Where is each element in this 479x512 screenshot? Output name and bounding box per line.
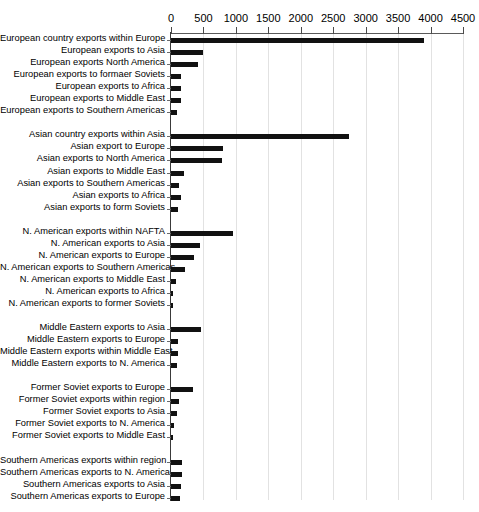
x-tick-mark <box>301 27 302 34</box>
bar-row-label: Southern Americas exports to Asia <box>0 479 165 489</box>
bar-row-label: N. American exports to Middle East <box>0 274 165 284</box>
bar <box>171 146 223 151</box>
bar <box>171 38 424 43</box>
bar <box>171 134 349 139</box>
gridline <box>268 34 269 500</box>
gridline <box>463 34 464 500</box>
bar-row-label: Former Soviet exports within region <box>0 394 165 404</box>
x-tick-mark <box>333 27 334 34</box>
bar <box>171 255 194 260</box>
bar <box>171 86 181 91</box>
bar-row-label: N. American exports to Southern Americas <box>0 262 165 272</box>
bar <box>171 460 182 465</box>
x-tick-label: 1500 <box>256 12 280 24</box>
bar-row-label: Former Soviet exports to N. America <box>0 418 165 428</box>
bar <box>171 279 176 284</box>
bar-row-label: European country exports within Europe <box>0 33 165 43</box>
bar-row-label: European exports to Southern Americas <box>0 105 165 115</box>
bar <box>171 231 233 236</box>
x-tick-label: 1000 <box>224 12 248 24</box>
bar <box>171 472 182 477</box>
horizontal-bar-chart: 050010001500200025003000350040004500 Eur… <box>0 0 479 512</box>
x-tick-mark <box>268 27 269 34</box>
bar-row-label: N. American exports to Europe <box>0 250 165 260</box>
bar <box>171 363 177 368</box>
gridline <box>301 34 302 500</box>
bar-row-label: Former Soviet exports to Europe <box>0 382 165 392</box>
bar-row-label: European exports to Asia <box>0 45 165 55</box>
bar-row-label: Southern Americas exports within region <box>0 455 165 465</box>
bar-row-label: Asian country exports within Asia <box>0 129 165 139</box>
x-tick-mark <box>171 27 172 34</box>
bar-row-label: N. American exports within NAFTA <box>0 226 165 236</box>
bar-row-label: N. American exports to Asia <box>0 238 165 248</box>
bar <box>171 327 201 332</box>
x-tick-mark <box>431 27 432 34</box>
bar <box>171 351 178 356</box>
bar-row-label: Middle Eastern exports to Europe <box>0 334 165 344</box>
gridline <box>398 34 399 500</box>
bar-row-label: Southern Americas exports to Europe <box>0 491 165 501</box>
bar <box>171 387 193 392</box>
gridline <box>203 34 204 500</box>
x-tick-label: 3500 <box>386 12 410 24</box>
bar <box>171 435 173 440</box>
bar <box>171 291 173 296</box>
bar-row-label: European exports to formaer Soviets <box>0 69 165 79</box>
bar <box>171 74 181 79</box>
x-tick-label: 500 <box>194 12 212 24</box>
gridline <box>366 34 367 500</box>
gridline <box>333 34 334 500</box>
bar <box>171 195 181 200</box>
x-tick-label: 2500 <box>321 12 345 24</box>
bar <box>171 496 180 501</box>
bar <box>171 243 200 248</box>
bar-row-label: Middle Eastern exports within Middle Eas… <box>0 346 165 356</box>
bar <box>171 339 178 344</box>
x-tick-label: 0 <box>168 12 174 24</box>
bar-row-label: Southern Americas exports to N. America <box>0 467 165 477</box>
bar <box>171 267 185 272</box>
x-axis-line <box>170 33 463 34</box>
x-tick-mark <box>203 27 204 34</box>
bar-row-label: Asian exports to Middle East <box>0 166 165 176</box>
x-tick-mark <box>398 27 399 34</box>
bar <box>171 411 177 416</box>
bar-row-label: Middle Eastern exports to N. America <box>0 358 165 368</box>
bar <box>171 158 222 163</box>
bar-row-label: N. American exports to Africa <box>0 286 165 296</box>
bar <box>171 50 203 55</box>
bar <box>171 183 179 188</box>
bar-row-label: Middle Eastern exports to Asia <box>0 322 165 332</box>
x-tick-label: 3000 <box>353 12 377 24</box>
bar <box>171 399 179 404</box>
x-tick-mark <box>366 27 367 34</box>
bar-row-label: European exports North America <box>0 57 165 67</box>
bar-row-label: European exports to Middle East <box>0 93 165 103</box>
x-tick-mark <box>236 27 237 34</box>
gridline <box>236 34 237 500</box>
bar <box>171 110 177 115</box>
x-tick-label: 2000 <box>289 12 313 24</box>
bar <box>171 484 181 489</box>
bar-row-label: Asian export to Europe <box>0 141 165 151</box>
bar <box>171 171 184 176</box>
bar-row-label: Asian exports to form Soviets <box>0 202 165 212</box>
bar <box>171 423 174 428</box>
bar-row-label: N. American exports to former Soviets <box>0 298 165 308</box>
gridline <box>431 34 432 500</box>
x-tick-label: 4500 <box>451 12 475 24</box>
bar <box>171 207 178 212</box>
bar-row-label: Asian exports to North America <box>0 153 165 163</box>
bar-row-label: Former Soviet exports to Asia <box>0 406 165 416</box>
bar-row-label: Asian exports to Southern Americas <box>0 178 165 188</box>
bar <box>171 303 173 308</box>
bar-row-label: Former Soviet exports to Middle East <box>0 430 165 440</box>
bar <box>171 62 198 67</box>
bar-row-label: Asian exports to Africa <box>0 190 165 200</box>
bar-row-label: European exports to Africa <box>0 81 165 91</box>
bar <box>171 98 181 103</box>
x-tick-mark <box>463 27 464 34</box>
x-tick-label: 4000 <box>418 12 442 24</box>
